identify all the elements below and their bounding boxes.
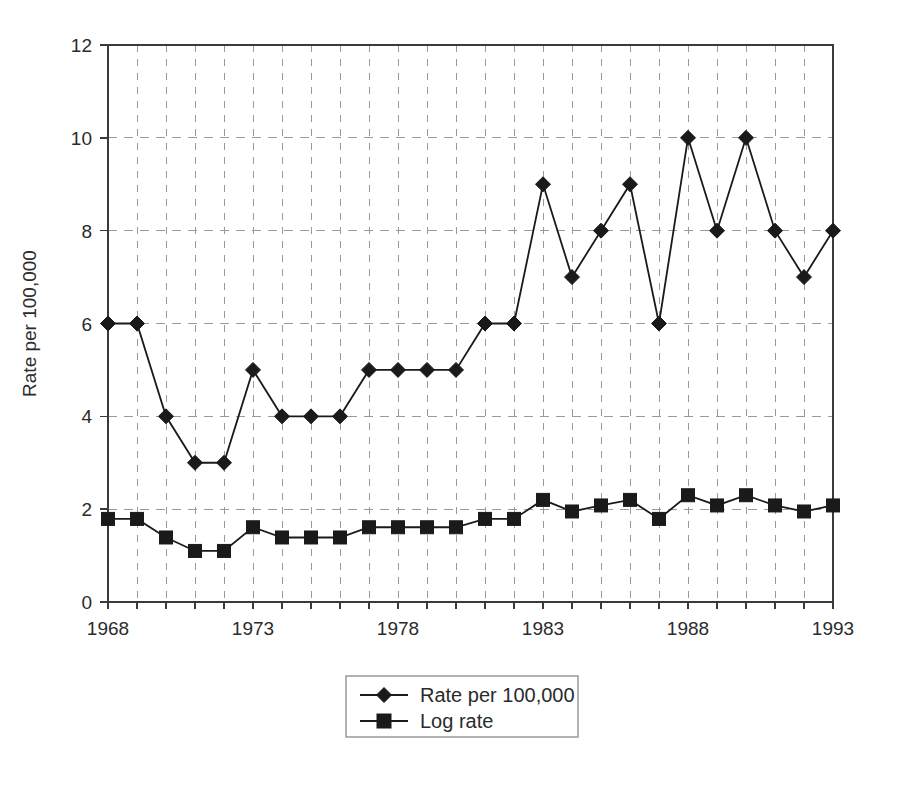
chart-figure: 196819731978198319881993 024681012 Rate … <box>0 0 897 806</box>
line-chart: 196819731978198319881993 024681012 Rate … <box>0 0 897 806</box>
y-tick-label: 10 <box>71 128 92 149</box>
data-point-marker <box>377 714 391 728</box>
data-point-marker <box>160 531 173 544</box>
chart-legend: Rate per 100,000Log rate <box>346 676 578 737</box>
data-point-marker <box>798 505 811 518</box>
data-point-marker <box>682 489 695 502</box>
data-point-marker <box>421 521 434 534</box>
y-tick-label: 8 <box>81 221 92 242</box>
data-point-marker <box>247 521 260 534</box>
data-point-marker <box>392 521 405 534</box>
x-tick-label: 1973 <box>232 618 274 639</box>
data-point-marker <box>189 544 202 557</box>
data-point-marker <box>653 512 666 525</box>
x-tick-label: 1978 <box>377 618 419 639</box>
y-axis-title: Rate per 100,000 <box>19 250 40 397</box>
y-tick-label: 6 <box>81 314 92 335</box>
y-tick-label: 12 <box>71 35 92 56</box>
y-tick-label: 4 <box>81 406 92 427</box>
data-point-marker <box>450 521 463 534</box>
data-point-marker <box>740 489 753 502</box>
data-point-marker <box>131 512 144 525</box>
data-point-marker <box>276 531 289 544</box>
data-point-marker <box>102 512 115 525</box>
data-point-marker <box>218 544 231 557</box>
y-tick-label: 0 <box>81 592 92 613</box>
data-point-marker <box>305 531 318 544</box>
data-point-marker <box>566 505 579 518</box>
data-point-marker <box>624 493 637 506</box>
data-point-marker <box>827 499 840 512</box>
x-tick-label: 1993 <box>812 618 854 639</box>
data-point-marker <box>479 512 492 525</box>
data-point-marker <box>595 499 608 512</box>
data-point-marker <box>508 512 521 525</box>
y-axis-title-text: Rate per 100,000 <box>19 250 40 397</box>
data-point-marker <box>537 493 550 506</box>
x-tick-label: 1968 <box>87 618 129 639</box>
data-point-marker <box>769 499 782 512</box>
legend-label: Rate per 100,000 <box>420 684 575 706</box>
x-tick-label: 1983 <box>522 618 564 639</box>
x-tick-label: 1988 <box>667 618 709 639</box>
legend-label: Log rate <box>420 710 493 732</box>
data-point-marker <box>711 499 724 512</box>
data-point-marker <box>363 521 376 534</box>
data-point-marker <box>334 531 347 544</box>
y-tick-label: 2 <box>81 499 92 520</box>
